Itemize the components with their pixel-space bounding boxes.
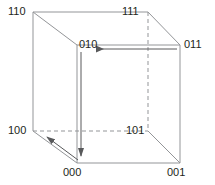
cube-graphic — [0, 0, 215, 185]
edge-100-000 — [33, 131, 77, 163]
cube-diagram: 110 111 010 011 100 101 000 001 — [0, 0, 215, 185]
vertex-label-001: 001 — [167, 167, 185, 178]
vertex-label-111: 111 — [122, 6, 139, 17]
cube-edges-dashed — [33, 12, 148, 131]
cube-edges-solid — [33, 12, 180, 163]
vertex-label-010: 010 — [79, 39, 97, 50]
edge-101-001 — [148, 131, 180, 163]
vertex-label-011: 011 — [184, 39, 202, 50]
arrow-000-to-100 — [47, 137, 78, 160]
vertex-label-100: 100 — [8, 125, 26, 136]
vertex-label-000: 000 — [63, 167, 81, 178]
edge-110-010 — [33, 12, 77, 45]
edge-111-011 — [148, 12, 180, 45]
path-arrows — [47, 49, 177, 160]
vertex-label-101: 101 — [126, 125, 144, 136]
vertex-label-110: 110 — [8, 6, 26, 17]
